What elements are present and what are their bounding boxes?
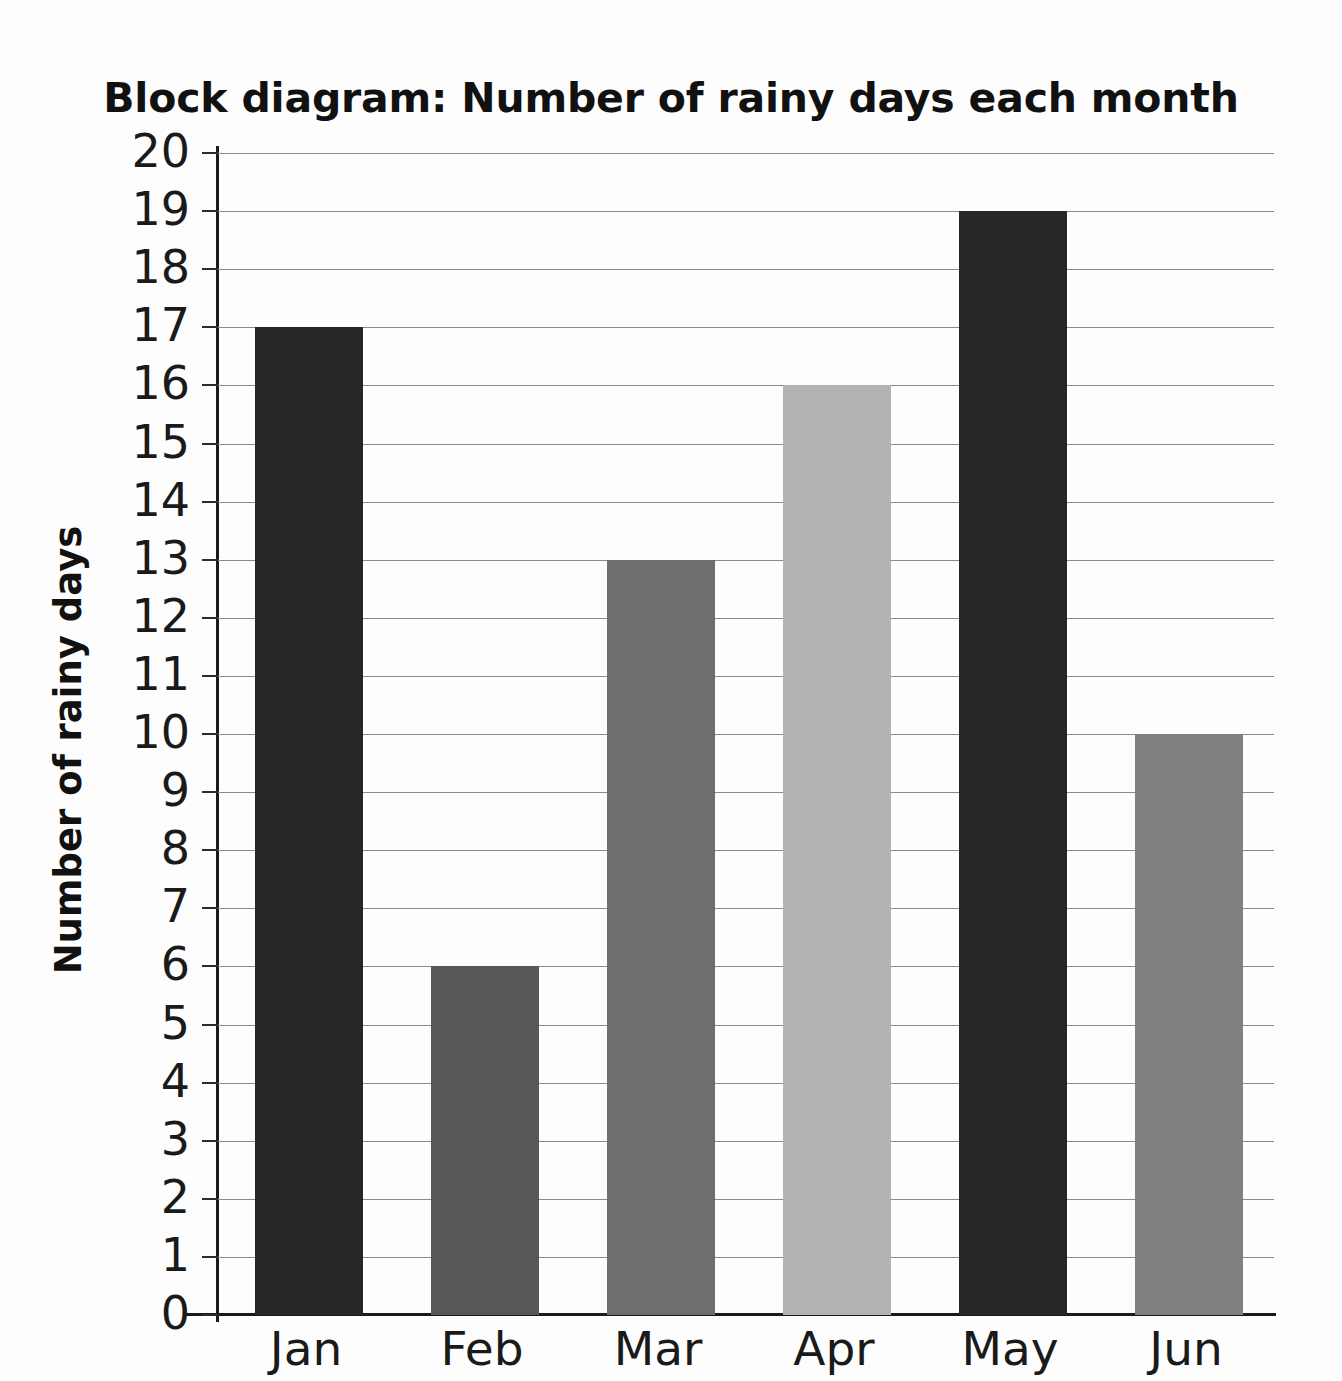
gridline [218, 618, 1274, 619]
gridline [218, 1257, 1274, 1258]
bar-jun [1135, 734, 1243, 1315]
y-tick-mark [202, 326, 219, 328]
y-tick-mark [202, 675, 219, 677]
y-tick-mark [202, 1314, 219, 1316]
y-tick-mark [202, 559, 219, 561]
gridline [218, 1141, 1274, 1142]
gridline [218, 502, 1274, 503]
plot-area [218, 153, 1274, 1315]
y-tick-label: 7 [100, 883, 190, 929]
gridline [218, 560, 1274, 561]
gridline [218, 734, 1274, 735]
x-tick-label-jun: Jun [1076, 1322, 1296, 1376]
bar-feb [431, 966, 539, 1315]
y-tick-mark [202, 1256, 219, 1258]
y-tick-label: 20 [100, 128, 190, 174]
y-tick-label: 11 [100, 651, 190, 697]
gridline [218, 1199, 1274, 1200]
gridline [218, 908, 1274, 909]
gridline [218, 792, 1274, 793]
y-tick-mark [202, 210, 219, 212]
gridline [218, 676, 1274, 677]
gridline [218, 269, 1274, 270]
y-tick-label: 10 [100, 709, 190, 755]
gridline [218, 327, 1274, 328]
gridline [218, 966, 1274, 967]
bar-mar [607, 560, 715, 1315]
y-tick-label: 3 [100, 1116, 190, 1162]
y-tick-mark [202, 1198, 219, 1200]
y-tick-label: 13 [100, 535, 190, 581]
y-tick-label: 15 [100, 419, 190, 465]
y-tick-mark [202, 907, 219, 909]
y-tick-label: 4 [100, 1058, 190, 1104]
y-tick-label: 8 [100, 825, 190, 871]
y-tick-mark [202, 617, 219, 619]
y-tick-label: 18 [100, 244, 190, 290]
bar-apr [783, 385, 891, 1315]
y-tick-mark [202, 268, 219, 270]
y-tick-label: 17 [100, 302, 190, 348]
y-tick-label: 9 [100, 767, 190, 813]
gridline [218, 211, 1274, 212]
y-tick-label: 14 [100, 477, 190, 523]
y-tick-label: 6 [100, 941, 190, 987]
y-tick-mark [202, 1082, 219, 1084]
y-tick-label: 16 [100, 360, 190, 406]
y-tick-mark [202, 965, 219, 967]
bar-jan [255, 327, 363, 1315]
y-tick-mark [202, 501, 219, 503]
gridline [218, 1083, 1274, 1084]
gridline [218, 1025, 1274, 1026]
chart-title: Block diagram: Number of rainy days each… [0, 74, 1342, 122]
y-tick-mark [202, 152, 219, 154]
y-tick-mark [202, 791, 219, 793]
y-tick-mark [202, 849, 219, 851]
y-tick-label: 12 [100, 593, 190, 639]
gridline [218, 385, 1274, 386]
gridline [218, 850, 1274, 851]
y-tick-mark [202, 384, 219, 386]
y-tick-label: 1 [100, 1232, 190, 1278]
y-tick-mark [202, 1024, 219, 1026]
y-tick-label: 5 [100, 1000, 190, 1046]
bar-may [959, 211, 1067, 1315]
y-tick-label: 2 [100, 1174, 190, 1220]
y-tick-mark [202, 443, 219, 445]
gridline [218, 444, 1274, 445]
y-tick-label: 19 [100, 186, 190, 232]
y-tick-mark [202, 1140, 219, 1142]
y-axis-title: Number of rainy days [47, 470, 90, 1030]
y-tick-mark [202, 733, 219, 735]
chart-page: Block diagram: Number of rainy days each… [0, 0, 1342, 1381]
y-tick-label: 0 [100, 1290, 190, 1336]
gridline [218, 153, 1274, 154]
